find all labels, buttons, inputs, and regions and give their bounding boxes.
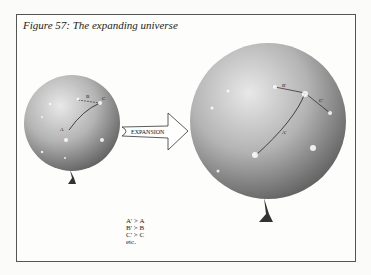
comparison-legend: A' > A B' > B C' > C etc.: [126, 218, 144, 246]
label-b-prime: B': [282, 83, 286, 88]
large-balloon: B' C' A': [190, 43, 346, 222]
label-c-prime: C': [319, 98, 323, 103]
expanding-universe-diagram: A B C EXPANSION B' C' A': [0, 0, 371, 275]
label-a-prime: A': [282, 130, 287, 135]
label-a: A: [60, 127, 64, 132]
expansion-label: EXPANSION: [131, 129, 165, 135]
small-balloon: A B C: [24, 75, 120, 184]
expansion-arrow: EXPANSION: [122, 113, 188, 150]
legend-line: etc.: [126, 239, 144, 246]
